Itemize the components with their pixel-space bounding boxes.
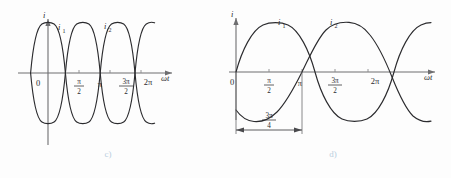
- chart-c-tick-3pi2-numerator: 3π: [122, 78, 130, 86]
- chart-d-curve-label-i1-subscript: 1: [283, 23, 286, 29]
- dimension-arrow-right-icon: [294, 128, 302, 133]
- chart-c-y-axis: [45, 19, 50, 145]
- chart-d-curve-label-i2: i 2: [330, 17, 338, 29]
- chart-c-curve-label-i2-subscript: 2: [109, 27, 112, 33]
- chart-d-tick-pi2-numerator: π: [267, 77, 271, 85]
- chart-d-curve-label-i1: i 1: [278, 17, 286, 29]
- dimension-arrow-left-icon: [236, 128, 244, 133]
- chart-c-tick-label-pi-over-2: π 2: [74, 78, 84, 96]
- chart-d-tick-label-3pi-over-2: 3π 2: [328, 77, 342, 95]
- chart-c-caption: c): [105, 149, 112, 159]
- chart-d-tick-label-pi-over-2: π 2: [264, 77, 274, 95]
- chart-c-y-axis-label: i: [43, 10, 46, 20]
- chart-c-curve-label-i1-subscript: 1: [63, 28, 66, 34]
- chart-d-y-axis-label: i: [231, 9, 234, 19]
- chart-c-x-axis-label: ωt: [161, 73, 170, 83]
- chart-c-curve-label-i1-base: i: [58, 22, 61, 32]
- chart-c-tick-pi2-denominator: 2: [77, 88, 81, 96]
- chart-d-dimension-denominator: 4: [267, 122, 271, 130]
- chart-d-x-axis-label: ωt: [424, 72, 433, 82]
- chart-d-tick-pi2-denominator: 2: [267, 87, 271, 95]
- chart-d-tick-label-2pi: 2π: [371, 76, 380, 86]
- chart-c-tick-pi2-numerator: π: [77, 78, 81, 86]
- figure-panel-d: i ωt 0 π 2 π 3π: [225, 0, 451, 178]
- chart-c-tick-3pi2-denominator: 2: [124, 88, 128, 96]
- chart-c-curve-label-i2: i 2: [104, 21, 112, 33]
- chart-c-tick-label-0: 0: [36, 78, 40, 88]
- chart-d-curve-label-i2-subscript: 2: [335, 23, 338, 29]
- chart-c-tick-label-2pi: 2π: [144, 77, 153, 87]
- chart-d-x-axis: [229, 69, 435, 74]
- figure-root: i ωt 0 π 2 π 3π 2: [0, 0, 451, 178]
- chart-d-tick-3pi2-numerator: 3π: [331, 77, 339, 85]
- chart-d-svg: i ωt 0 π 2 π 3π: [225, 0, 451, 178]
- chart-c-curve-label-i1: i 1: [58, 22, 66, 34]
- chart-c-svg: i ωt 0 π 2 π 3π 2: [0, 0, 225, 178]
- chart-d-caption: d): [329, 149, 337, 159]
- chart-d-curve-label-i1-base: i: [278, 17, 281, 27]
- chart-d-dimension-numerator: 3π: [265, 112, 273, 120]
- chart-c-x-axis: [18, 70, 172, 75]
- chart-c-tick-label-3pi-over-2: 3π 2: [119, 78, 133, 96]
- chart-c-curve-label-i2-base: i: [104, 21, 107, 31]
- chart-d-tick-3pi2-denominator: 2: [333, 87, 337, 95]
- chart-d-tick-label-0: 0: [230, 77, 234, 87]
- figure-panel-c: i ωt 0 π 2 π 3π 2: [0, 0, 225, 178]
